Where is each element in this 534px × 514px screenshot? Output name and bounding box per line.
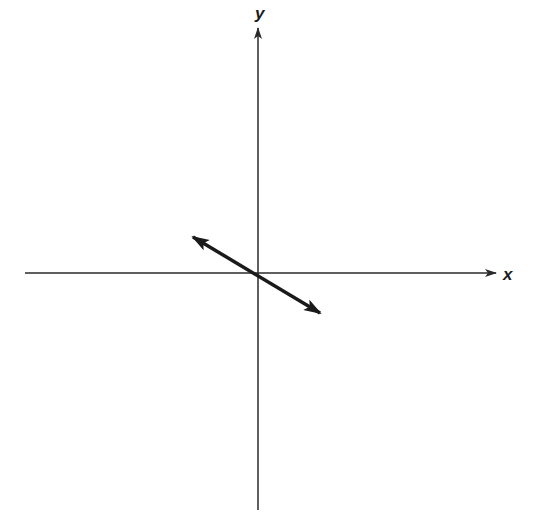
axes-diagram: y x [0, 0, 534, 514]
y-axis-label: y [254, 4, 266, 23]
double-arrow-vector [193, 237, 320, 313]
x-axis-label: x [502, 265, 514, 284]
